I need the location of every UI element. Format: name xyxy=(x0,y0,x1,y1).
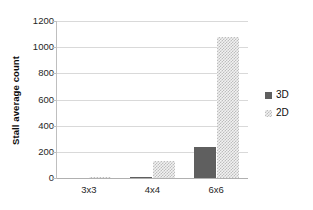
chart-legend: 3D2D xyxy=(265,86,311,122)
y-axis-tick-label: 1200 xyxy=(2,16,54,26)
y-axis-tick-label: 400 xyxy=(2,121,54,131)
bar-2d-3x3 xyxy=(89,177,111,178)
plot-area xyxy=(57,21,248,178)
bar-group xyxy=(184,21,248,178)
legend-item-2d[interactable]: 2D xyxy=(265,104,311,122)
bar-2d-4x4 xyxy=(153,161,175,178)
x-axis-line xyxy=(57,178,248,179)
legend-label: 3D xyxy=(276,90,289,100)
bar-3d-4x4 xyxy=(130,177,152,178)
y-axis-tick-label: 800 xyxy=(2,68,54,78)
bar-chart: Stall average count 02004006008001000120… xyxy=(0,0,313,210)
bar-3d-6x6 xyxy=(194,147,216,178)
x-axis-tick-label-4x4: 4x4 xyxy=(121,184,185,195)
bar-group xyxy=(57,21,121,178)
y-axis-tick-label: 200 xyxy=(2,147,54,157)
legend-item-3d[interactable]: 3D xyxy=(265,86,311,104)
x-axis-tick-label-3x3: 3x3 xyxy=(57,184,121,195)
legend-swatch-3d-icon xyxy=(265,92,272,99)
y-axis-tick-label: 600 xyxy=(2,95,54,105)
legend-swatch-2d-icon xyxy=(265,110,272,117)
y-axis-tick-label: 1000 xyxy=(2,42,54,52)
x-axis-tick-label-6x6: 6x6 xyxy=(184,184,248,195)
bar-2d-6x6 xyxy=(217,37,239,178)
legend-label: 2D xyxy=(276,108,289,118)
y-axis-tick-label: 0 xyxy=(2,173,54,183)
y-axis-tick-labels: 020040060080010001200 xyxy=(0,0,54,210)
bar-group xyxy=(121,21,185,178)
